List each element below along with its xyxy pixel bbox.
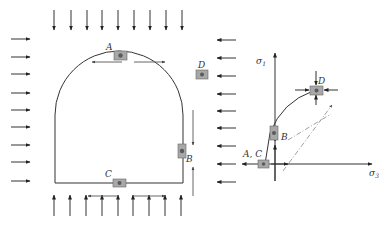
element-d-plot bbox=[310, 86, 323, 95]
dashdot-line-lower bbox=[283, 105, 332, 171]
element-a bbox=[114, 51, 127, 60]
label-d: D bbox=[197, 60, 205, 70]
element-d bbox=[196, 70, 208, 79]
label-d-plot: D bbox=[317, 76, 325, 86]
label-a: A bbox=[105, 42, 113, 52]
label-c: C bbox=[105, 169, 112, 179]
stress-path-plot: σ1 σ3 A, C B bbox=[242, 53, 379, 181]
right-load-arrows bbox=[217, 40, 236, 182]
tunnel-outline bbox=[55, 51, 183, 183]
sigma1-label: σ1 bbox=[256, 56, 266, 67]
top-load-arrows bbox=[54, 10, 182, 30]
bottom-load-arrows bbox=[54, 195, 181, 216]
dashdot-line-upper bbox=[288, 114, 331, 140]
element-ac bbox=[258, 160, 269, 168]
sigma3-label: σ3 bbox=[369, 168, 379, 179]
element-b bbox=[178, 144, 186, 158]
label-ac: A, C bbox=[242, 149, 262, 159]
label-b: B bbox=[185, 154, 193, 164]
tunnel-stress-diagram: A B C D σ1 σ3 bbox=[0, 0, 385, 225]
element-b-plot bbox=[270, 126, 278, 140]
element-c bbox=[113, 179, 126, 187]
label-b-plot: B bbox=[280, 132, 288, 142]
left-load-arrows bbox=[11, 39, 30, 181]
